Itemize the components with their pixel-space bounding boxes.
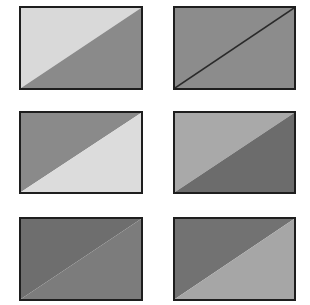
diagonal-split-rectangle-r2c1 — [19, 111, 143, 194]
diagonal-split-rectangle-r1c1 — [19, 6, 143, 90]
diagonal-split-rectangle-r3c2 — [173, 217, 296, 301]
diagonal-split-rectangle-r1c2 — [173, 6, 296, 90]
diagonal-split-rectangle-r3c1 — [19, 217, 143, 301]
diagonal-split-rectangle-r2c2 — [173, 111, 296, 194]
